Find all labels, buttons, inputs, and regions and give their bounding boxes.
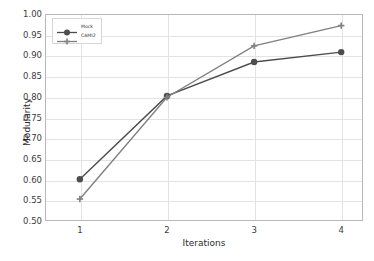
data-point-mock xyxy=(77,176,83,182)
legend-marker-icon xyxy=(56,31,78,40)
data-point-mock xyxy=(338,49,344,55)
legend-marker-icon xyxy=(56,22,78,31)
chart-figure: 0.500.550.600.650.700.750.800.850.900.95… xyxy=(0,0,374,261)
legend-item-cami2: CAMI2 xyxy=(56,31,96,40)
x-tick-label: 1 xyxy=(60,225,100,235)
x-tick-label: 3 xyxy=(234,225,274,235)
series-line-cami2 xyxy=(80,26,341,199)
legend-label: CAMI2 xyxy=(81,31,96,40)
legend-item-mock: Mock xyxy=(56,22,96,31)
y-tick-label: 1.00 xyxy=(2,9,42,19)
legend-label: Mock xyxy=(81,22,93,31)
y-axis-title: Modularity xyxy=(22,62,32,182)
data-point-cami2 xyxy=(338,22,344,28)
x-tick-label: 2 xyxy=(147,225,187,235)
chart-data-layer xyxy=(45,14,363,221)
data-point-cami2 xyxy=(251,43,257,49)
x-axis-title: Iterations xyxy=(45,238,363,248)
y-tick-label: 0.90 xyxy=(2,50,42,60)
y-tick-label: 0.95 xyxy=(2,30,42,40)
y-tick-label: 0.50 xyxy=(2,216,42,226)
data-point-mock xyxy=(251,59,257,65)
chart-legend: MockCAMI2 xyxy=(52,18,102,44)
x-tick-label: 4 xyxy=(321,225,361,235)
y-tick-label: 0.55 xyxy=(2,195,42,205)
